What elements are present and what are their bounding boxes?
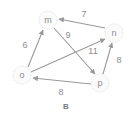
edge-weight-m-p: 9: [65, 30, 70, 40]
edge-weight-o-m: 6: [22, 40, 27, 50]
graph-canvas: m n o p 7 6 9 11 8 8 B: [0, 0, 132, 119]
node-n-label: n: [111, 28, 116, 38]
nodes-group: m n o p: [13, 11, 123, 92]
edge-weight-n-m: 7: [81, 9, 86, 19]
figure-caption: B: [63, 102, 69, 111]
edge-p-to-n: [103, 43, 112, 74]
node-m-label: m: [44, 15, 52, 25]
edge-weight-p-o: 8: [58, 87, 63, 97]
node-p-label: p: [97, 78, 102, 88]
graph-diagram-figure: m n o p 7 6 9 11 8 8 B: [0, 0, 132, 119]
edge-p-to-o: [33, 78, 91, 84]
node-o-label: o: [19, 70, 24, 80]
edge-weight-o-n: 11: [88, 46, 97, 56]
edge-weight-p-n: 8: [116, 55, 121, 65]
edge-n-to-m: [59, 19, 105, 28]
edge-o-to-m: [28, 30, 43, 67]
